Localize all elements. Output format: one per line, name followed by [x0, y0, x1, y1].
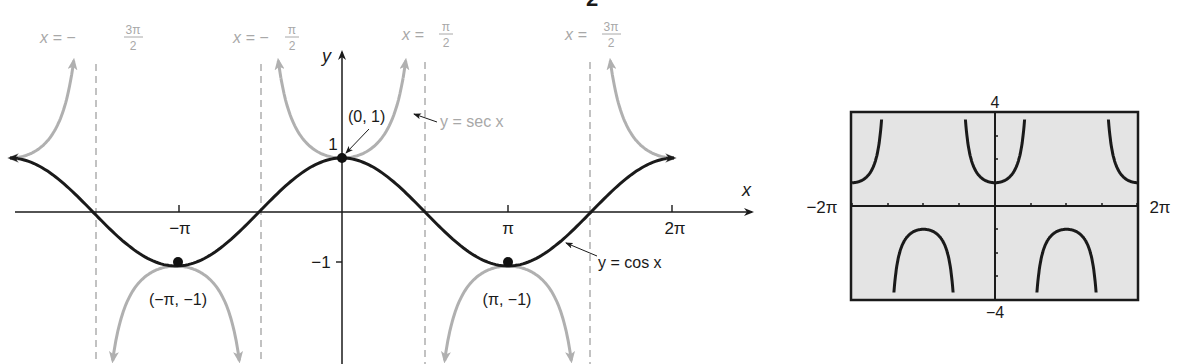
x-axis-label: x: [741, 180, 752, 200]
svg-text:π: π: [288, 23, 296, 37]
sec-curve-label: y = sec x: [440, 113, 504, 130]
svg-text:3π: 3π: [126, 23, 141, 37]
tick-label-2pi: 2π: [664, 219, 685, 238]
svg-text:2: 2: [289, 39, 296, 53]
cos-arrow-right: [666, 158, 674, 159]
sec-branch-right-down-a: [445, 266, 508, 361]
point-0-1: [337, 153, 347, 163]
svg-text:x =: x =: [401, 26, 424, 43]
cos-arrow-left: [10, 158, 18, 159]
y-axis-label: y: [320, 46, 332, 66]
sec-branch-left-down-a: [113, 266, 176, 361]
sec-branch-center-arrow-left: [278, 61, 281, 78]
top-fragment-text: 2: [586, 0, 598, 11]
main-graph: x y −π π 2π 1 −1 x = − 3π 2 x = − π 2 x …: [10, 20, 752, 364]
calculator-screen: 4 −4 −2π 2π: [806, 94, 1170, 321]
svg-text:π: π: [442, 20, 450, 34]
sec-branch-far-left: [13, 61, 74, 158]
asymptote-lines: [96, 62, 590, 364]
tick-label-pi: π: [502, 219, 514, 238]
sec-branch-center-arrow-right: [403, 61, 406, 78]
y-ticks: [336, 158, 342, 262]
sec-branch-far-right: [610, 61, 671, 158]
asymptote-label-1: x = − 3π 2: [39, 23, 143, 53]
calc-xmax-label: 2π: [1149, 198, 1170, 217]
tick-label-ym1: −1: [311, 253, 330, 272]
svg-text:x =: x =: [564, 26, 587, 43]
calc-xmin-label: −2π: [806, 198, 837, 217]
point-label-pi: (π, −1): [483, 291, 532, 308]
calc-ymin-label: −4: [986, 304, 1004, 321]
sec-branch-left-down-b: [176, 266, 239, 361]
svg-text:x = −: x = −: [232, 29, 269, 46]
svg-text:x = −: x = −: [39, 29, 76, 46]
cos-label-pointer: [566, 243, 597, 256]
point-pi-neg1: [503, 257, 513, 267]
asymptote-label-2: x = − π 2: [232, 23, 299, 53]
asymptote-label-3: x = π 2: [401, 20, 453, 50]
svg-text:3π: 3π: [604, 20, 619, 34]
svg-text:2: 2: [608, 36, 615, 50]
figure-canvas: 2 x y −π π 2π 1 −1: [0, 0, 1184, 364]
sec-branch-right-down-b: [508, 266, 571, 361]
point-label-neg-pi: (−π, −1): [149, 291, 207, 308]
cos-curve-label: y = cos x: [598, 254, 662, 271]
tick-label-y1: 1: [328, 135, 337, 154]
tick-label-neg-pi: −π: [169, 219, 191, 238]
point-label-0-1-pointer: [346, 129, 369, 153]
svg-text:2: 2: [443, 36, 450, 50]
point-label-0-1: (0, 1): [348, 108, 385, 125]
asymptote-label-4: x = 3π 2: [564, 20, 621, 50]
calc-ymax-label: 4: [991, 94, 1000, 111]
svg-text:2: 2: [130, 39, 137, 53]
point-neg-pi-neg1: [173, 257, 183, 267]
